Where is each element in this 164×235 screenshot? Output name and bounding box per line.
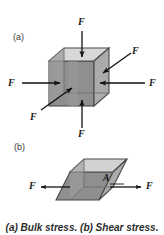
force-label-top: F xyxy=(78,16,85,27)
figure-illustration xyxy=(0,0,164,235)
area-label: A xyxy=(103,173,109,183)
force-label-shear-right: F xyxy=(146,180,153,191)
panel-label-a: (a) xyxy=(13,32,24,42)
sheared-box-illustration xyxy=(41,159,141,200)
force-label-shear-left: F xyxy=(29,180,36,191)
physics-figure-bulk-and-shear-stress: (a) F F F F F F (b) F F A (a) Bulk stres… xyxy=(0,0,164,235)
force-label-right: F xyxy=(149,77,156,88)
cube-illustration xyxy=(22,31,145,128)
force-label-left: F xyxy=(8,77,15,88)
force-label-back-upper-right: F xyxy=(132,45,139,56)
panel-label-b: (b) xyxy=(14,142,25,152)
cube-front-highlight-band xyxy=(68,61,78,106)
force-label-front-lower-left: F xyxy=(30,111,37,122)
figure-caption: (a) Bulk stress. (b) Shear stress. xyxy=(0,222,164,233)
force-label-bottom: F xyxy=(78,128,85,139)
